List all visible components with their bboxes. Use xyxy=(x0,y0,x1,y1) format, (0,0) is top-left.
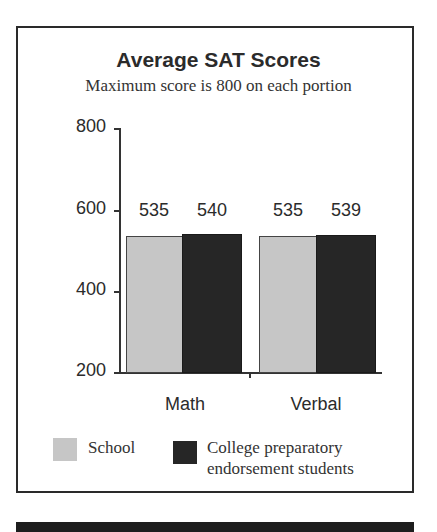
y-axis xyxy=(119,128,121,374)
y-tick-label: 600 xyxy=(56,198,106,219)
chart-title: Average SAT Scores xyxy=(0,48,437,72)
value-label-math-school: 535 xyxy=(124,200,184,221)
category-label-math: Math xyxy=(125,394,245,415)
bar-verbal-school xyxy=(259,236,317,373)
y-tick-label: 800 xyxy=(56,116,106,137)
value-label-math-college: 540 xyxy=(182,200,242,221)
value-label-verbal-school: 535 xyxy=(258,200,318,221)
bar-math-college xyxy=(182,234,242,373)
y-tick-600 xyxy=(114,210,120,212)
y-tick-800 xyxy=(114,128,120,130)
legend-label-school: School xyxy=(88,437,135,458)
bar-verbal-college xyxy=(316,235,376,373)
value-label-verbal-college: 539 xyxy=(316,200,376,221)
legend-label-college-line2: endorsement students xyxy=(207,458,354,479)
x-tick-separator xyxy=(249,372,251,378)
bar-math-school xyxy=(126,236,183,373)
legend-label-college-line1: College preparatory xyxy=(207,437,342,458)
legend-swatch-school xyxy=(53,438,77,461)
next-panel-edge xyxy=(16,522,414,532)
y-tick-label: 200 xyxy=(56,360,106,381)
y-tick-400 xyxy=(114,291,120,293)
category-label-verbal: Verbal xyxy=(256,394,376,415)
legend-swatch-college xyxy=(173,441,197,464)
y-tick-200 xyxy=(114,372,120,374)
y-tick-label: 400 xyxy=(56,279,106,300)
chart-subtitle: Maximum score is 800 on each portion xyxy=(0,76,437,96)
